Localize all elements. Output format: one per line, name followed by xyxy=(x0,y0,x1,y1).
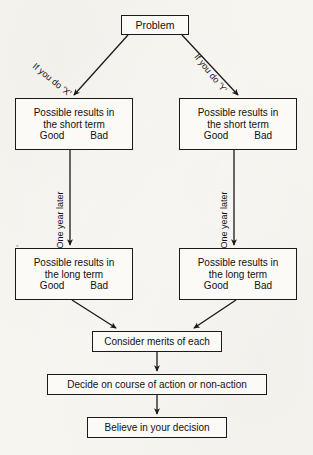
node-short-term-x-line2: the short term xyxy=(43,119,105,131)
outcome-good: Good xyxy=(40,280,64,292)
node-decide-course-label: Decide on course of action or non-action xyxy=(67,379,247,391)
node-problem[interactable]: Problem xyxy=(121,15,189,35)
edge-label-one-year-later-y: One year later xyxy=(219,191,229,248)
edge-long-y-to-consider xyxy=(194,300,236,328)
edge-long-x-to-consider xyxy=(72,300,116,328)
diagram-canvas: Problem Possible results in the short te… xyxy=(0,0,313,455)
node-short-term-x[interactable]: Possible results in the short term Good … xyxy=(15,98,133,150)
node-long-term-x-line2: the long term xyxy=(45,269,103,281)
edge-problem-to-short-x xyxy=(74,35,128,95)
node-short-term-y-line2: the short term xyxy=(207,119,269,131)
outcome-bad: Bad xyxy=(254,130,272,142)
node-long-term-y-line1: Possible results in xyxy=(198,257,279,269)
node-long-term-y-line2: the long term xyxy=(209,269,267,281)
node-short-term-x-line1: Possible results in xyxy=(34,107,115,119)
node-consider-merits[interactable]: Consider merits of each xyxy=(92,331,222,352)
outcome-good: Good xyxy=(40,130,64,142)
node-long-term-y[interactable]: Possible results in the long term Good B… xyxy=(179,248,297,300)
node-short-term-y-outcomes: Good Bad xyxy=(180,130,296,142)
node-decide-course[interactable]: Decide on course of action or non-action xyxy=(47,374,267,395)
node-problem-label: Problem xyxy=(135,19,174,31)
node-short-term-y-line1: Possible results in xyxy=(198,107,279,119)
outcome-bad: Bad xyxy=(90,130,108,142)
node-short-term-y[interactable]: Possible results in the short term Good … xyxy=(179,98,297,150)
outcome-bad: Bad xyxy=(254,280,272,292)
outcome-bad: Bad xyxy=(90,280,108,292)
outcome-good: Good xyxy=(204,280,228,292)
node-long-term-y-outcomes: Good Bad xyxy=(180,280,296,292)
node-long-term-x-line1: Possible results in xyxy=(34,257,115,269)
node-long-term-x[interactable]: Possible results in the long term Good B… xyxy=(15,248,133,300)
node-believe-decision-label: Believe in your decision xyxy=(104,422,209,434)
node-long-term-x-outcomes: Good Bad xyxy=(16,280,132,292)
node-short-term-x-outcomes: Good Bad xyxy=(16,130,132,142)
edge-label-one-year-later-x: One year later xyxy=(55,191,65,248)
node-believe-decision[interactable]: Believe in your decision xyxy=(87,417,227,438)
outcome-good: Good xyxy=(204,130,228,142)
node-consider-merits-label: Consider merits of each xyxy=(104,336,210,348)
